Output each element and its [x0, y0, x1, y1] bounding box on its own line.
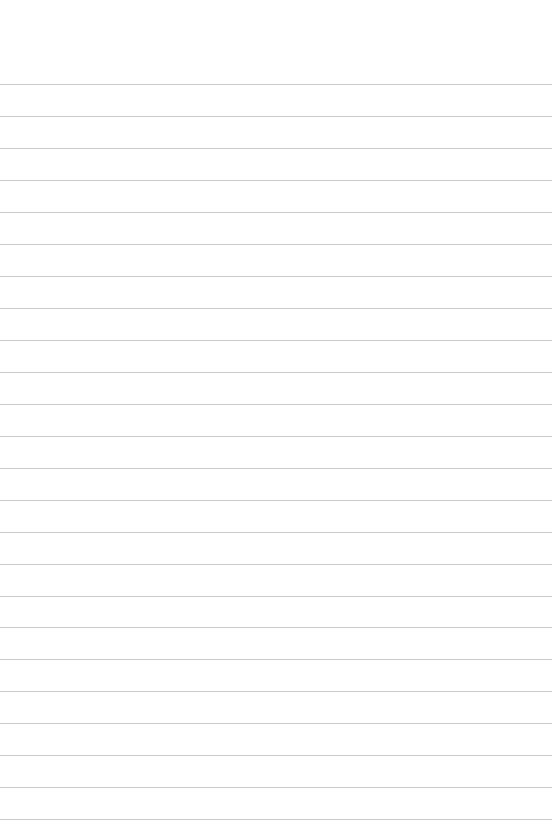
ruled-line: [0, 532, 552, 533]
ruled-line: [0, 84, 552, 85]
ruled-line: [0, 723, 552, 724]
ruled-line: [0, 755, 552, 756]
ruled-line: [0, 436, 552, 437]
ruled-line: [0, 819, 552, 820]
ruled-line: [0, 180, 552, 181]
ruled-line: [0, 691, 552, 692]
ruled-line: [0, 116, 552, 117]
ruled-line: [0, 340, 552, 341]
ruled-line: [0, 244, 552, 245]
lined-paper: [0, 0, 552, 834]
ruled-line: [0, 276, 552, 277]
ruled-line: [0, 148, 552, 149]
ruled-line: [0, 596, 552, 597]
ruled-line: [0, 372, 552, 373]
ruled-line: [0, 500, 552, 501]
ruled-line: [0, 659, 552, 660]
ruled-line: [0, 212, 552, 213]
ruled-line: [0, 564, 552, 565]
ruled-line: [0, 787, 552, 788]
ruled-line: [0, 627, 552, 628]
ruled-line: [0, 468, 552, 469]
ruled-line: [0, 308, 552, 309]
ruled-line: [0, 404, 552, 405]
